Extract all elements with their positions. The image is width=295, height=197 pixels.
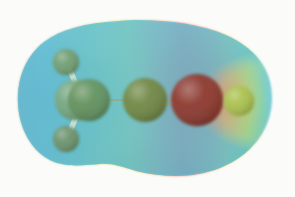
atom-c2-carbon bbox=[123, 78, 167, 122]
atom-c3-carbon bbox=[171, 74, 223, 126]
molecule-figure-canvas bbox=[0, 0, 295, 197]
atom-sphere-shading bbox=[53, 126, 79, 152]
atom-h3-hydrogen bbox=[224, 86, 254, 116]
atom-h2-hydrogen bbox=[53, 126, 79, 152]
atom-sphere-shading bbox=[171, 74, 223, 126]
atom-sphere-shading bbox=[68, 79, 110, 121]
atom-sphere-shading bbox=[123, 78, 167, 122]
atom-h1-hydrogen bbox=[53, 49, 79, 75]
electrostatic-potential-map bbox=[0, 0, 295, 197]
atom-sphere-shading bbox=[224, 86, 254, 116]
atom-c1b-carbon bbox=[68, 79, 110, 121]
atom-sphere-shading bbox=[53, 49, 79, 75]
